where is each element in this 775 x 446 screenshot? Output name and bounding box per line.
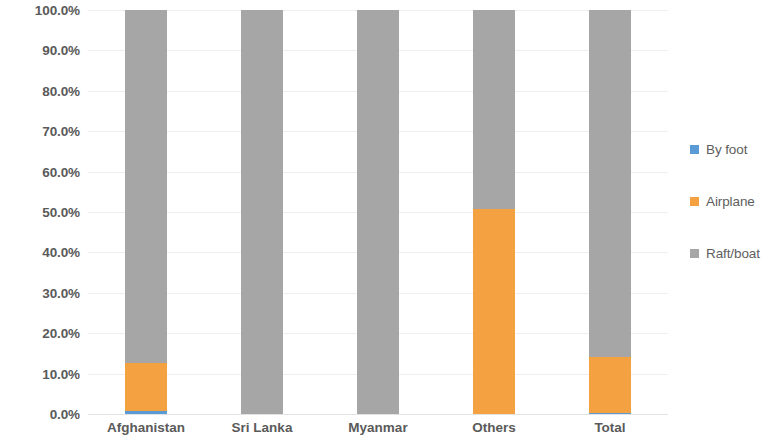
legend-item[interactable]: By foot [690,142,747,157]
y-axis-tick-label: 50.0% [0,205,80,220]
legend-label: Raft/boat [706,246,760,261]
bar-series-layer [88,10,668,414]
bar-segment[interactable] [357,10,399,414]
y-axis-tick-label: 70.0% [0,124,80,139]
bar-stack[interactable] [125,10,167,414]
x-axis-tick-label: Total [594,420,625,435]
stacked-bar-chart: 0.0%10.0%20.0%30.0%40.0%50.0%60.0%70.0%8… [0,0,775,446]
x-axis-tick-label: Myanmar [348,420,407,435]
x-axis-tick-label: Afghanistan [107,420,185,435]
legend-swatch-icon [690,145,699,154]
y-axis-tick-label: 90.0% [0,43,80,58]
bar-stack[interactable] [473,10,515,414]
bar-segment[interactable] [473,10,515,209]
y-axis-tick-label: 60.0% [0,164,80,179]
y-axis: 0.0%10.0%20.0%30.0%40.0%50.0%60.0%70.0%8… [0,0,88,446]
bar-group[interactable] [552,10,668,414]
legend-item[interactable]: Airplane [690,194,755,209]
bar-segment[interactable] [589,357,631,413]
legend-swatch-icon [690,249,699,258]
legend-swatch-icon [690,197,699,206]
bar-segment[interactable] [241,10,283,414]
bar-segment[interactable] [125,411,167,414]
bar-stack[interactable] [241,10,283,414]
y-axis-tick-label: 10.0% [0,366,80,381]
gridline [88,414,668,415]
x-axis-tick-label: Sri Lanka [232,420,293,435]
y-axis-tick-label: 40.0% [0,245,80,260]
x-axis-tick-label: Others [472,420,516,435]
bar-group[interactable] [204,10,320,414]
legend-label: Airplane [706,194,755,209]
y-axis-tick-label: 100.0% [0,3,80,18]
legend-label: By foot [706,142,747,157]
bar-stack[interactable] [589,10,631,414]
bar-segment[interactable] [125,363,167,411]
bar-group[interactable] [436,10,552,414]
y-axis-tick-label: 80.0% [0,83,80,98]
bar-segment[interactable] [589,413,631,414]
bar-group[interactable] [320,10,436,414]
plot-area [88,10,668,414]
y-axis-tick-label: 20.0% [0,326,80,341]
bar-stack[interactable] [357,10,399,414]
bar-group[interactable] [88,10,204,414]
bar-segment[interactable] [473,209,515,414]
legend-item[interactable]: Raft/boat [690,246,760,261]
y-axis-tick-label: 30.0% [0,285,80,300]
bar-segment[interactable] [589,10,631,357]
y-axis-tick-label: 0.0% [0,407,80,422]
x-axis: AfghanistanSri LankaMyanmarOthersTotal [88,418,668,446]
bar-segment[interactable] [125,10,167,363]
